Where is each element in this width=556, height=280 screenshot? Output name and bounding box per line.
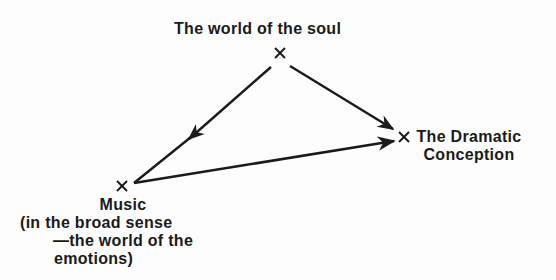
node-label-drama: The Dramatic Conception <box>414 128 524 164</box>
node-label-music-line4: emotions) <box>14 250 232 268</box>
node-label-soul: The world of the soul <box>174 20 341 38</box>
arrow-music-to-drama <box>134 141 394 183</box>
node-label-drama-line1: The Dramatic <box>414 128 524 146</box>
node-label-music: Music (in the broad sense —the world of … <box>14 196 232 268</box>
node-label-music-line2: (in the broad sense <box>14 214 232 232</box>
cross-mark-drama <box>399 132 409 142</box>
node-label-drama-line2: Conception <box>414 146 524 164</box>
cross-mark-music <box>117 181 127 191</box>
cross-mark-soul <box>275 48 285 58</box>
node-label-music-line1: Music <box>14 196 232 214</box>
node-label-music-line3: —the world of the <box>14 232 232 250</box>
arrow-soul-to-music <box>189 67 271 139</box>
arrow-soul-to-drama <box>290 66 393 129</box>
